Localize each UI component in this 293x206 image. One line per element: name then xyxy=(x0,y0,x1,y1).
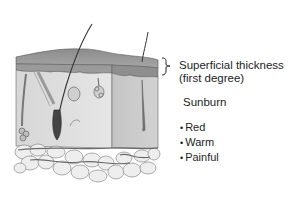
dermis-front xyxy=(16,70,112,148)
bullet-icon: • xyxy=(180,123,183,133)
symptom-item: •Warm xyxy=(180,135,219,150)
thickness-bracket xyxy=(162,58,170,75)
depth-annotation-line2: (first degree) xyxy=(179,72,284,85)
depth-annotation-line1: Superficial thickness xyxy=(179,59,284,72)
symptom-item: •Red xyxy=(180,120,219,135)
symptom-item: •Painful xyxy=(180,150,219,165)
condition-title: Sunburn xyxy=(183,96,226,109)
bullet-icon: • xyxy=(180,138,183,148)
skin-cross-section-illustration xyxy=(0,0,293,206)
subcutaneous-fat xyxy=(14,144,160,182)
symptom-list: •Red •Warm •Painful xyxy=(180,120,219,165)
dermis-side xyxy=(112,73,158,148)
bullet-icon: • xyxy=(180,153,183,163)
depth-annotation: Superficial thickness (first degree) xyxy=(179,59,284,85)
